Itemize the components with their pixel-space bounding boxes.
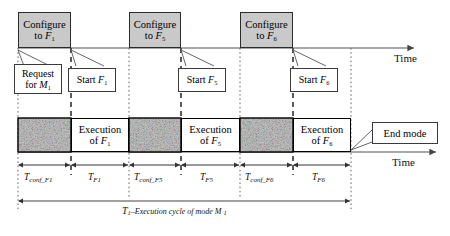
- execution-box-1-line2: of F1: [89, 135, 110, 147]
- configure-box-1-line2: to F1: [34, 30, 54, 42]
- configure-box-3-line1: Configure: [245, 19, 288, 30]
- callout-end-mode[interactable]: End mode: [372, 122, 438, 144]
- configure-box-2-line2: to F5: [145, 30, 165, 42]
- callout-start-f1-label: Start F1: [77, 74, 108, 86]
- execution-box-2-line2: of F5: [200, 135, 221, 147]
- bottom-time-axis-label: Time: [392, 156, 415, 168]
- cycle-caption: T1–Execution cycle of mode M 1: [122, 205, 227, 216]
- callout-start-f6[interactable]: Start F6: [290, 68, 338, 92]
- callout-end-mode-label: End mode: [384, 128, 427, 139]
- duration-label-conf-f5: Tconf_F5: [134, 172, 163, 184]
- execution-box-1[interactable]: Execution of F1: [71, 118, 129, 152]
- callout-start-f1[interactable]: Start F1: [68, 68, 116, 92]
- config-segment-group: [18, 118, 293, 152]
- duration-label-conf-f6: Tconf_F6: [245, 172, 274, 184]
- duration-label-f1: TF1: [88, 172, 101, 184]
- callout-start-f5-label: Start F5: [187, 74, 218, 86]
- configure-box-1-line1: Configure: [23, 19, 66, 30]
- callout-request-line1: Request: [22, 68, 54, 79]
- timing-diagram-figure: Configure to F1 Configure to F5 Configur…: [0, 0, 450, 236]
- top-time-axis-label: Time: [394, 52, 417, 64]
- configure-box-3[interactable]: Configure to F6: [240, 12, 293, 48]
- duration-label-f6: TF6: [312, 172, 325, 184]
- callout-request-for-m1[interactable]: Request for M1: [14, 64, 62, 94]
- execution-box-2-line1: Execution: [189, 124, 232, 135]
- execution-box-3-line1: Execution: [301, 124, 344, 135]
- end-mode-leader-line: [351, 130, 372, 150]
- configure-box-3-line2: to F6: [256, 30, 276, 42]
- execution-box-3[interactable]: Execution of F6: [293, 118, 351, 152]
- configure-box-1[interactable]: Configure to F1: [18, 12, 71, 48]
- configure-box-2-line1: Configure: [134, 19, 177, 30]
- callout-leader-lines: [18, 50, 326, 66]
- callout-request-line2: for M1: [25, 79, 51, 91]
- execution-box-1-line1: Execution: [79, 124, 122, 135]
- duration-label-conf-f1: Tconf_F1: [24, 172, 53, 184]
- execution-box-2[interactable]: Execution of F5: [181, 118, 240, 152]
- configure-box-2[interactable]: Configure to F5: [129, 12, 181, 48]
- callout-start-f6-label: Start F6: [299, 74, 330, 86]
- duration-label-f5: TF5: [200, 172, 213, 184]
- callout-start-f5[interactable]: Start F5: [178, 68, 226, 92]
- execution-box-3-line2: of F6: [311, 135, 332, 147]
